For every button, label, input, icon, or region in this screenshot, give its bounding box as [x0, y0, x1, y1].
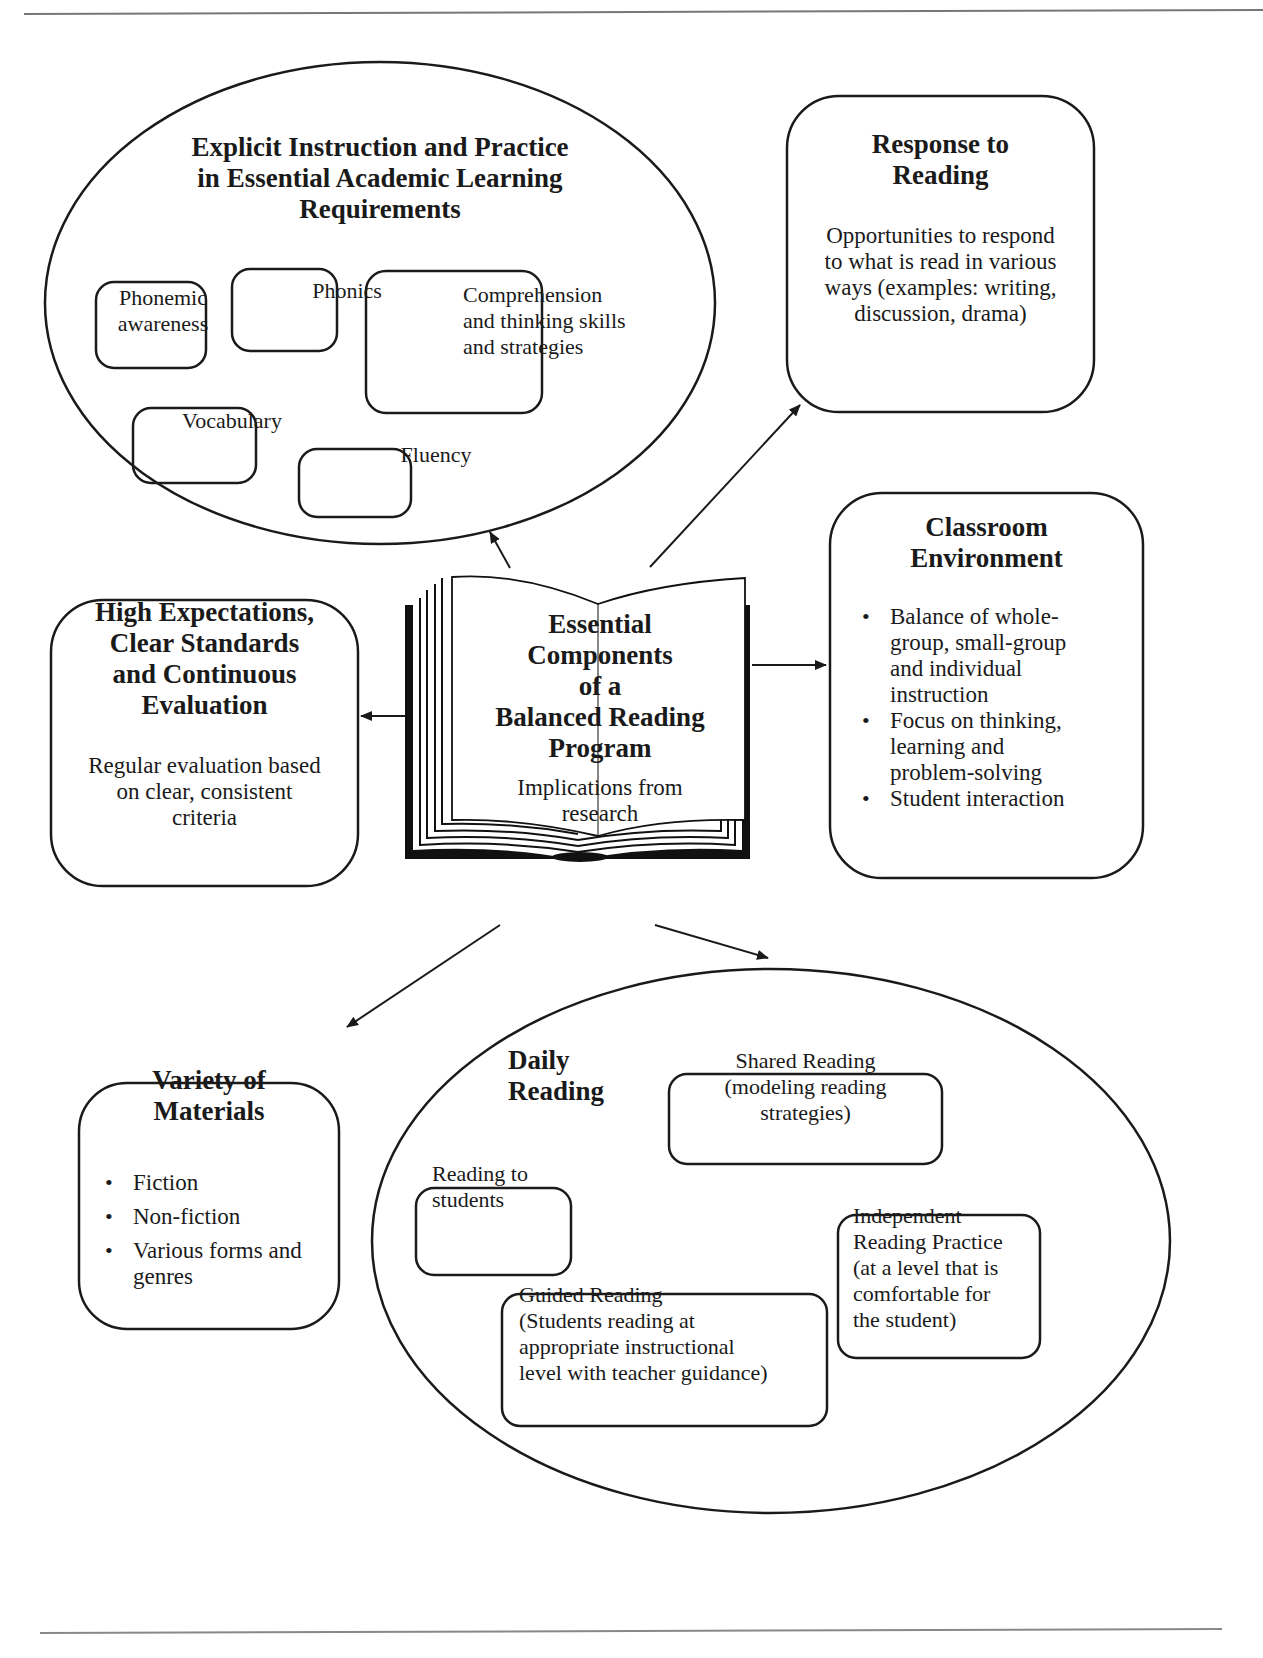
label-fluency: Fluency	[366, 442, 506, 468]
arrow-to-daily-reading	[655, 925, 768, 958]
label-comprehension: Comprehension and thinking skills and st…	[463, 282, 673, 360]
center-title: Essential Components of a Balanced Readi…	[460, 609, 740, 764]
label-independent-reading: Independent Reading Practice (at a level…	[853, 1203, 1043, 1333]
bullet-item: Non-fiction	[101, 1204, 336, 1230]
label-reading-to-students: Reading to students	[432, 1161, 572, 1213]
arrow-to-explicit-instruction	[490, 532, 510, 568]
label-vocabulary: Vocabulary	[157, 408, 307, 434]
daily-reading-title: Daily Reading	[508, 1045, 658, 1107]
label-guided-reading: Guided Reading (Students reading at appr…	[519, 1282, 829, 1386]
high-expectations-body: Regular evaluation based on clear, consi…	[51, 753, 358, 831]
bullet-item: Focus on thinking, learning and problem-…	[858, 708, 1138, 786]
classroom-environment-list: Balance of whole- group, small-group and…	[858, 604, 1138, 812]
variety-of-materials-title: Variety of Materials	[79, 1065, 339, 1127]
label-shared-reading: Shared Reading (modeling reading strateg…	[669, 1048, 942, 1126]
high-expectations-title: High Expectations, Clear Standards and C…	[51, 597, 358, 721]
bullet-item: Student interaction	[858, 786, 1138, 812]
center-subtitle: Implications from research	[460, 775, 740, 827]
explicit-instruction-title: Explicit Instruction and Practice in Ess…	[120, 132, 640, 225]
response-to-reading-title: Response to Reading	[787, 129, 1094, 191]
footer-rule	[40, 1629, 1222, 1633]
variety-of-materials-list: Fiction Non-fiction Various forms and ge…	[101, 1170, 336, 1290]
header-rule	[24, 10, 1263, 14]
arrow-to-response	[650, 405, 800, 567]
response-to-reading-body: Opportunities to respond to what is read…	[787, 223, 1094, 327]
label-phonemic-awareness: Phonemic awareness	[96, 285, 230, 337]
label-phonics: Phonics	[280, 278, 414, 304]
bullet-item: Various forms and genres	[101, 1238, 336, 1290]
bullet-item: Balance of whole- group, small-group and…	[858, 604, 1138, 708]
classroom-environment-title: Classroom Environment	[830, 512, 1143, 574]
bullet-item: Fiction	[101, 1170, 336, 1196]
arrow-to-variety	[347, 925, 500, 1027]
